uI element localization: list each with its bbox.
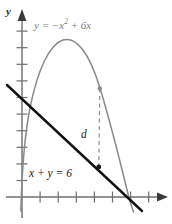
plot-canvas <box>0 0 172 224</box>
y-axis-label: y <box>6 6 11 17</box>
x-axis <box>6 193 168 202</box>
parabola-equation-lhs: y = −x <box>34 19 64 31</box>
line-equation-label: x + y = 6 <box>29 168 72 180</box>
straight-line <box>7 85 142 211</box>
distance-segment <box>96 86 102 169</box>
distance-endpoint-lower <box>96 165 101 170</box>
parabola-equation-rhs: + 6x <box>68 19 91 31</box>
distance-endpoint-upper <box>98 86 102 90</box>
parabola-line-distance-figure: y y = −x2 + 6x x + y = 6 d <box>0 0 172 224</box>
distance-label: d <box>81 129 87 141</box>
parabola-equation-label: y = −x2 + 6x <box>34 20 91 31</box>
